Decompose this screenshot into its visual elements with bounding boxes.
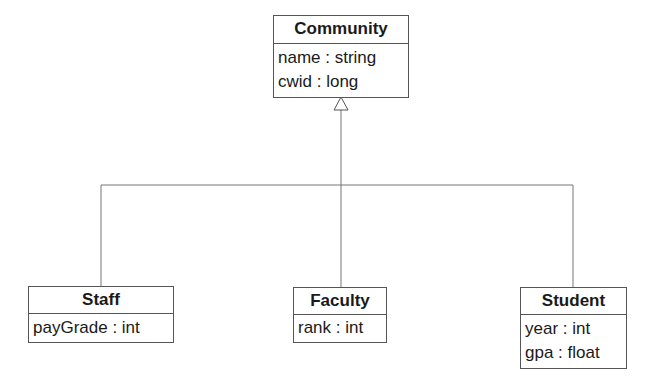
class-attributes: name : string cwid : long (274, 44, 408, 94)
generalization-arrow-icon (334, 97, 348, 110)
class-community: Community name : string cwid : long (273, 15, 409, 98)
class-staff: Staff payGrade : int (28, 286, 174, 343)
class-attributes: rank : int (294, 315, 386, 340)
class-name: Student (521, 288, 626, 315)
attribute: year : int (525, 317, 622, 341)
attribute: payGrade : int (33, 316, 169, 340)
class-attributes: year : int gpa : float (521, 315, 626, 365)
attribute: gpa : float (525, 341, 622, 365)
attribute: name : string (278, 46, 404, 70)
class-name: Community (274, 16, 408, 44)
class-faculty: Faculty rank : int (293, 287, 387, 343)
class-student: Student year : int gpa : float (520, 287, 627, 369)
attribute: rank : int (298, 316, 382, 340)
class-name: Staff (29, 287, 173, 314)
attribute: cwid : long (278, 70, 404, 94)
class-name: Faculty (294, 288, 386, 315)
class-attributes: payGrade : int (29, 314, 173, 340)
